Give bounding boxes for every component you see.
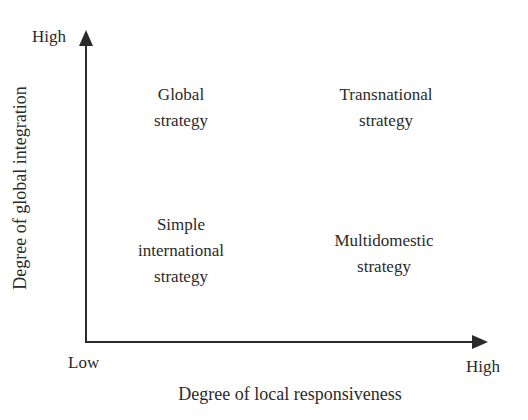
quadrant-line: Transnational [340,82,433,108]
y-axis-arrow-icon [79,30,93,46]
quadrant-line: strategy [340,108,433,134]
x-axis-high-label: High [466,356,500,378]
y-axis-high-label: High [32,26,66,48]
quadrant-line: Global [154,82,208,108]
quadrant-line: strategy [154,108,208,134]
x-axis-arrow-icon [472,335,488,349]
quadrant-line: Simple [138,212,224,238]
quadrant-transnational-strategy: Transnational strategy [340,82,433,134]
quadrant-line: international [138,238,224,264]
x-axis-low-label: Low [68,352,99,374]
quadrant-simple-international-strategy: Simple international strategy [138,212,224,290]
x-axis-title: Degree of local responsiveness [178,384,401,405]
quadrant-global-strategy: Global strategy [154,82,208,134]
quadrant-line: Multidomestic [334,228,433,254]
quadrant-line: strategy [138,264,224,290]
quadrant-multidomestic-strategy: Multidomestic strategy [334,228,433,280]
quadrant-line: strategy [334,254,433,280]
y-axis-title: Degree of global integration [10,86,31,289]
